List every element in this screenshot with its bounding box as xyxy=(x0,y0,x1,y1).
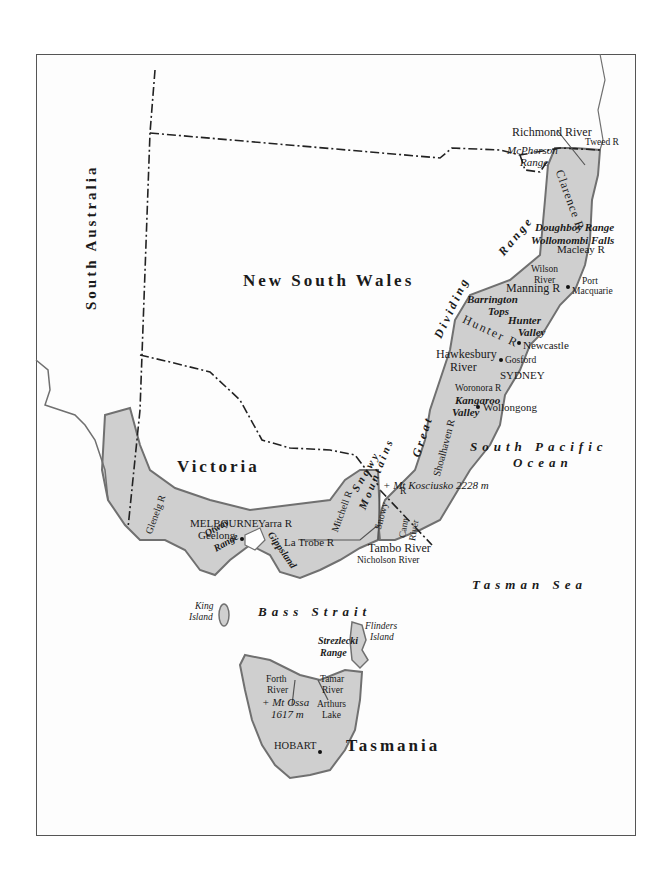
label-hawkesbury: Hawkesbury xyxy=(436,348,497,360)
label-ossa-height: 1617 m xyxy=(271,709,304,720)
label-mcpherson-range: Range xyxy=(520,157,548,168)
label-tamar-river: River xyxy=(322,686,343,696)
label-arthurs-lake: Lake xyxy=(322,711,341,721)
label-mt-ossa: + Mt Ossa xyxy=(262,697,309,708)
label-tasman-sea: Tasman Sea xyxy=(472,578,587,591)
label-manning-r: Manning R xyxy=(506,282,560,294)
label-port-macquarie: Macquarie xyxy=(572,287,613,297)
label-king-island: Island xyxy=(189,613,213,623)
label-kangaroo-valley: Valley xyxy=(452,407,480,418)
geelong-dot xyxy=(240,537,244,541)
label-hunter-valley: Valley xyxy=(518,327,546,338)
label-south-pacific: South Pacific xyxy=(470,440,608,453)
label-sydney: SYDNEY xyxy=(500,370,545,381)
label-latrobe-r: La Trobe R xyxy=(284,537,334,548)
label-woronora-r: Woronora R xyxy=(455,384,501,394)
label-hawkesbury-river: River xyxy=(450,361,477,373)
label-mcpherson: McPherson xyxy=(507,145,558,156)
label-wilson: Wilson xyxy=(531,265,558,275)
label-geelong: Geelong xyxy=(198,530,235,541)
label-forth-river: River xyxy=(267,686,288,696)
king-island xyxy=(219,604,229,626)
label-hobart: HOBART xyxy=(274,741,317,752)
qld-coastline xyxy=(598,54,605,150)
label-hunter: Hunter xyxy=(508,315,541,326)
label-barrington-tops: Tops xyxy=(488,306,509,317)
victoria-land xyxy=(102,408,380,578)
label-wollongong: Wollongong xyxy=(483,402,537,413)
label-king: King xyxy=(195,602,213,612)
label-tamar: Tamar xyxy=(320,675,344,685)
label-tweed-r: Tweed R xyxy=(585,138,619,148)
label-forth: Forth xyxy=(266,675,287,685)
label-wollomombi-falls: Wollomombi Falls xyxy=(531,235,614,246)
label-yarra-r: Yarra R xyxy=(258,518,292,529)
label-strzelecki: Strezlecki xyxy=(318,636,358,646)
label-flinders-island: Island xyxy=(370,633,394,643)
label-strzelecki-range: Range xyxy=(320,648,347,658)
label-melbourne: MELBOURNE xyxy=(190,518,258,529)
gosford-dot xyxy=(499,358,503,362)
label-bass-strait: Bass Strait xyxy=(258,605,371,618)
label-newcastle: Newcastle xyxy=(523,340,569,351)
label-mt-kosciusko: + Mt Kosciusko 2228 m xyxy=(383,480,489,491)
label-tasmania: Tasmania xyxy=(346,737,440,754)
sa-coastline xyxy=(36,360,108,500)
label-victoria: Victoria xyxy=(177,458,260,475)
port-macquarie-dot xyxy=(566,285,570,289)
label-barrington: Barrington xyxy=(467,294,518,305)
label-nicholson-river: Nicholson River xyxy=(357,556,420,566)
label-gosford: Gosford xyxy=(505,356,536,366)
label-new-south-wales: New South Wales xyxy=(243,272,414,289)
label-richmond-river: Richmond River xyxy=(512,126,592,138)
hobart-dot xyxy=(318,750,322,754)
label-south-australia: South Australia xyxy=(84,165,99,310)
label-tambo-river: Tambo River xyxy=(368,542,431,554)
label-arthurs: Arthurs xyxy=(317,700,346,710)
label-flinders: Flinders xyxy=(365,622,397,632)
label-ocean: Ocean xyxy=(513,456,573,469)
